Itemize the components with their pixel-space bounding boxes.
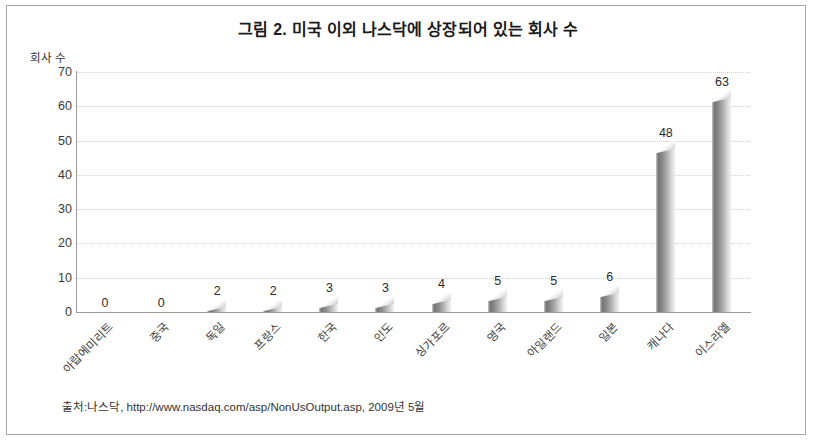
x-axis-tick-slot: 아랍에미리트 [77, 316, 133, 390]
bar-slot: 2 [189, 72, 245, 312]
y-axis-tick-label: 50 [38, 134, 72, 148]
bar-slot: 0 [77, 72, 133, 312]
x-axis-tick-slot: 영국 [470, 316, 526, 390]
y-axis-tick-label: 10 [38, 271, 72, 285]
y-axis-tick-label: 60 [38, 99, 72, 113]
figure-container: 그림 2. 미국 이외 나스닥에 상장되어 있는 회사 수 회사 수 01020… [0, 0, 816, 442]
x-axis-tick-label: 일본 [594, 318, 621, 345]
bar-value-label: 2 [245, 284, 301, 298]
bar [712, 96, 731, 312]
x-axis-tick-label: 이스라엘 [691, 318, 733, 360]
bar-slot: 63 [694, 72, 750, 312]
bar-slot: 5 [526, 72, 582, 312]
bar-value-label: 48 [638, 126, 694, 140]
x-axis-tick-slot: 독일 [189, 316, 245, 390]
bar-value-label: 5 [470, 274, 526, 288]
x-axis-tick-label: 인도 [370, 318, 397, 345]
x-axis-tick-labels: 아랍에미리트중국독일프랑스한국인도싱가포르영국아일랜드일본캐나다이스라엘 [77, 316, 750, 390]
bar [375, 302, 394, 312]
x-axis-tick-slot: 일본 [582, 316, 638, 390]
bar-value-label: 6 [582, 270, 638, 284]
page-title: 그림 2. 미국 이외 나스닥에 상장되어 있는 회사 수 [0, 16, 816, 40]
x-axis-tick-label: 싱가포르 [410, 318, 452, 360]
bar-series: 00223345564863 [77, 72, 750, 312]
bar [432, 298, 451, 312]
bar-slot: 4 [414, 72, 470, 312]
x-axis-tick-slot: 인도 [357, 316, 413, 390]
bar-value-label: 0 [77, 296, 133, 310]
y-axis-title: 회사 수 [30, 49, 66, 65]
bar-value-label: 0 [133, 296, 189, 310]
x-axis-tick-slot: 중국 [133, 316, 189, 390]
bar-value-label: 5 [526, 274, 582, 288]
bar [207, 305, 226, 312]
y-axis-ticks: 010203040506070 [36, 72, 72, 312]
x-axis-tick-label: 프랑스 [250, 318, 285, 353]
x-axis-tick-slot: 캐나다 [638, 316, 694, 390]
bar-value-label: 3 [301, 281, 357, 295]
bar-slot: 2 [245, 72, 301, 312]
bar [319, 302, 338, 312]
x-axis-tick-label: 중국 [146, 318, 173, 345]
y-axis-tick-label: 70 [38, 65, 72, 79]
x-axis-tick-slot: 아일랜드 [526, 316, 582, 390]
x-axis-tick-label: 캐나다 [643, 318, 678, 353]
bar-value-label: 2 [189, 284, 245, 298]
y-axis-tick-label: 20 [38, 236, 72, 250]
y-axis-tick-label: 0 [38, 305, 72, 319]
bar [656, 147, 675, 312]
y-axis-tick-label: 30 [38, 202, 72, 216]
x-axis-tick-slot: 한국 [301, 316, 357, 390]
bar [544, 295, 563, 312]
x-axis-tick-slot: 프랑스 [245, 316, 301, 390]
bar [488, 295, 507, 312]
bar [600, 291, 619, 312]
x-axis-tick-label: 한국 [314, 318, 341, 345]
bar-value-label: 3 [357, 281, 413, 295]
x-axis-tick-slot: 이스라엘 [694, 316, 750, 390]
bar [263, 305, 282, 312]
bar-slot: 6 [582, 72, 638, 312]
source-note: 출처:나스닥, http://www.nasdaq.com/asp/NonUsO… [62, 398, 425, 414]
bar-slot: 3 [357, 72, 413, 312]
bar-slot: 48 [638, 72, 694, 312]
y-axis-tick-label: 40 [38, 168, 72, 182]
bar-value-label: 4 [414, 277, 470, 291]
bar-slot: 3 [301, 72, 357, 312]
x-axis-tick-slot: 싱가포르 [414, 316, 470, 390]
bar-slot: 0 [133, 72, 189, 312]
x-axis-line [76, 312, 751, 313]
bar-slot: 5 [470, 72, 526, 312]
x-axis-tick-label: 영국 [482, 318, 509, 345]
x-axis-tick-label: 독일 [202, 318, 229, 345]
bar-value-label: 63 [694, 75, 750, 89]
x-axis-tick-label: 아일랜드 [523, 318, 565, 360]
